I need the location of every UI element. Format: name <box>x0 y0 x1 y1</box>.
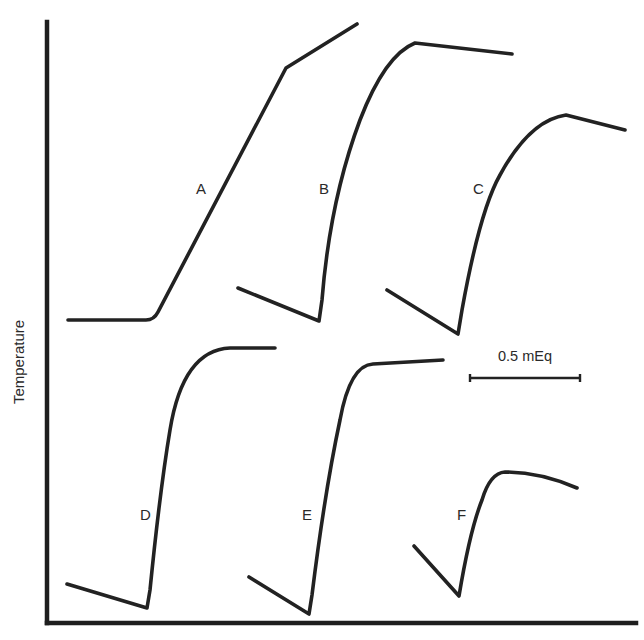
curve-e: E <box>249 360 443 614</box>
curve-e-label: E <box>302 506 312 523</box>
curve-c: C <box>387 115 625 334</box>
curve-a-label: A <box>196 180 206 197</box>
curve-e-path <box>249 360 443 614</box>
curve-b-label: B <box>319 180 329 197</box>
y-axis-label: Temperature <box>10 320 27 404</box>
curve-a-path <box>68 24 357 320</box>
scale-bar-label: 0.5 mEq <box>498 348 552 364</box>
curve-f: F <box>414 472 577 596</box>
thermometric-titration-figure: Temperature A B C D E F 0.5 mEq <box>0 0 644 640</box>
curve-c-label: C <box>473 180 484 197</box>
curve-f-path <box>414 472 577 596</box>
curve-d-label: D <box>140 506 151 523</box>
curve-f-label: F <box>457 506 466 523</box>
scale-bar: 0.5 mEq <box>470 348 580 382</box>
curve-d: D <box>67 348 275 608</box>
curve-d-path <box>67 348 275 608</box>
curve-c-path <box>387 115 625 334</box>
curve-a: A <box>68 24 357 320</box>
axes <box>47 22 636 623</box>
